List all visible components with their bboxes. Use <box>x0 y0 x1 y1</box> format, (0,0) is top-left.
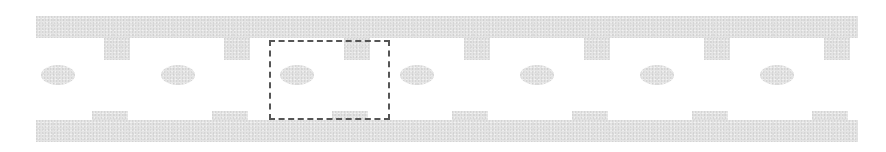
bottom-bar <box>36 120 858 142</box>
top-tab <box>464 38 490 60</box>
bottom-tab <box>692 111 728 120</box>
top-tab <box>224 38 250 60</box>
ellipse-dot <box>161 65 195 85</box>
bottom-tab <box>92 111 128 120</box>
bottom-tab <box>452 111 488 120</box>
bottom-tab <box>812 111 848 120</box>
ellipse-dot <box>41 65 75 85</box>
ellipse-dot <box>640 65 674 85</box>
bottom-tab <box>212 111 248 120</box>
ellipse-dot <box>760 65 794 85</box>
top-tab <box>704 38 730 60</box>
ellipse-dot <box>400 65 434 85</box>
bottom-tab <box>572 111 608 120</box>
top-tab <box>824 38 850 60</box>
ellipse-dot <box>520 65 554 85</box>
top-bar <box>36 16 858 38</box>
top-tab <box>104 38 130 60</box>
selection-box <box>269 40 390 120</box>
pattern-diagram <box>0 0 886 152</box>
top-tab <box>584 38 610 60</box>
